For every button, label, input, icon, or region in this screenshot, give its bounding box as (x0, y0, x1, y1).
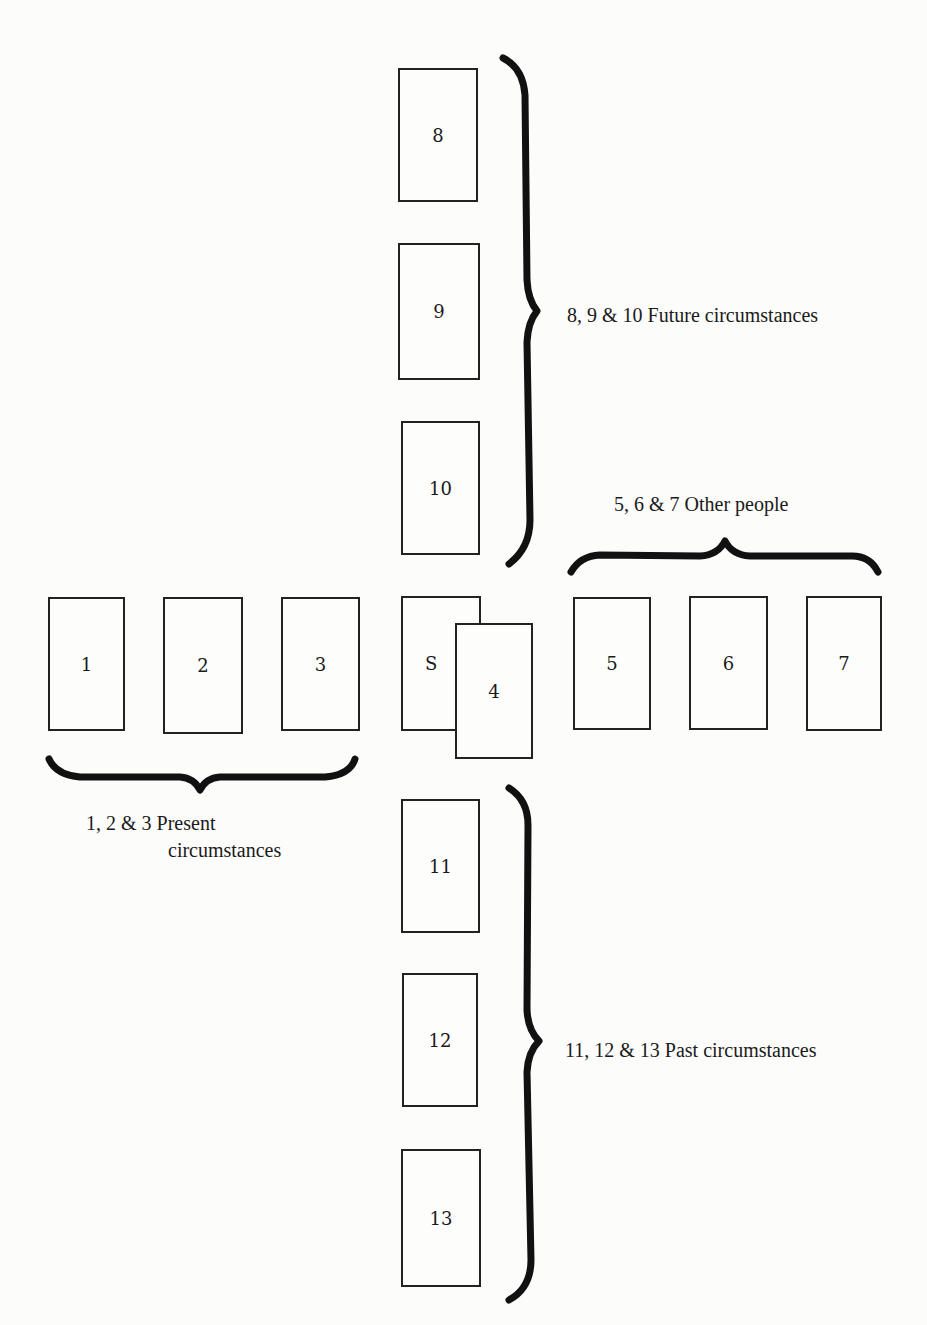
present-label-line1: 1, 2 & 3 Present (86, 813, 215, 833)
card-6: 6 (689, 596, 768, 730)
card-7-label: 7 (838, 653, 849, 674)
card-12-label: 12 (429, 1030, 452, 1051)
others-label: 5, 6 & 7 Other people (614, 494, 788, 514)
card-5: 5 (573, 597, 651, 730)
future-brace (503, 58, 537, 564)
card-10: 10 (401, 421, 480, 555)
card-3: 3 (281, 597, 360, 731)
card-4: 4 (455, 623, 533, 759)
card-9: 9 (398, 243, 480, 380)
card-5-label: 5 (606, 653, 617, 674)
card-6-label: 6 (723, 653, 734, 674)
card-11: 11 (401, 799, 480, 933)
card-9-label: 9 (433, 301, 444, 322)
card-10-label: 10 (429, 478, 452, 499)
card-3-label: 3 (315, 654, 326, 675)
card-13-label: 13 (430, 1208, 453, 1229)
card-1-label: 1 (81, 654, 92, 675)
card-1: 1 (48, 597, 125, 731)
card-7: 7 (806, 596, 882, 731)
past-label: 11, 12 & 13 Past circumstances (565, 1040, 816, 1060)
card-2: 2 (163, 597, 243, 734)
card-8-label: 8 (432, 125, 443, 146)
card-13: 13 (401, 1149, 481, 1287)
future-label: 8, 9 & 10 Future circumstances (567, 305, 818, 325)
past-brace (509, 788, 539, 1300)
present-label-line2: circumstances (168, 840, 281, 860)
present-brace (49, 759, 355, 790)
card-8: 8 (398, 68, 478, 202)
card-2-label: 2 (197, 655, 208, 676)
others-brace (571, 541, 878, 572)
card-11-label: 11 (429, 856, 452, 877)
card-12: 12 (402, 973, 478, 1107)
card-4-label: 4 (488, 681, 499, 702)
card-s-label: S (425, 653, 437, 674)
